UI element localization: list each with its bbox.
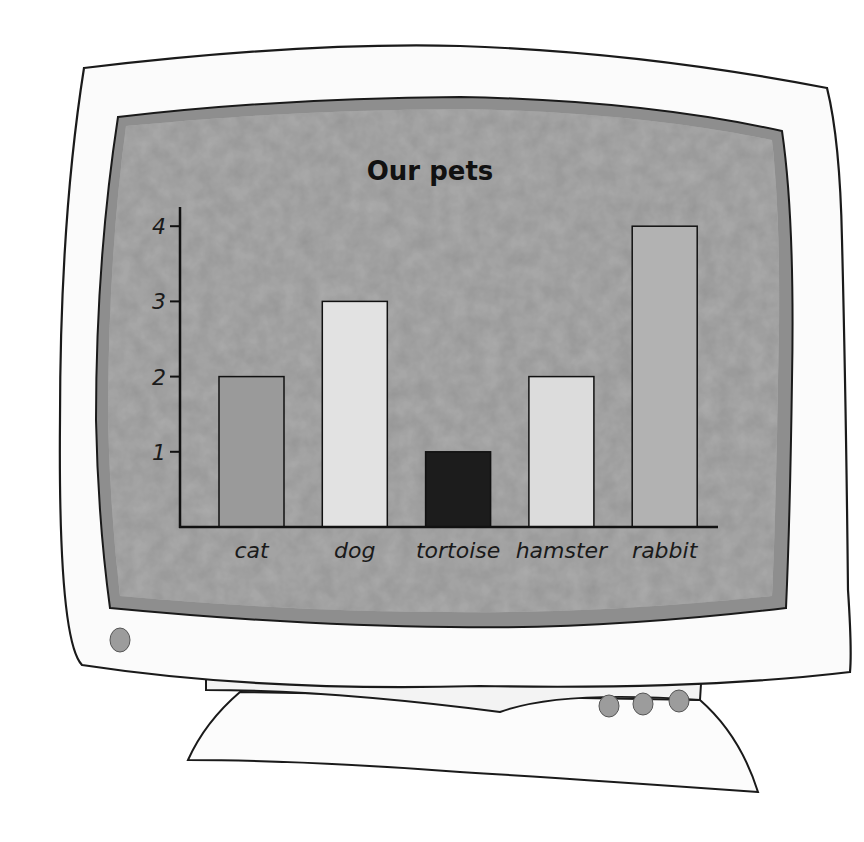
stand-button-2[interactable] xyxy=(633,693,653,715)
x-label-dog: dog xyxy=(334,538,375,563)
monitor-illustration: Our pets 1234 catdogtortoisehamsterrabbi… xyxy=(0,0,864,842)
bar-dog xyxy=(322,301,387,527)
bar-rabbit xyxy=(632,226,697,527)
power-button[interactable] xyxy=(110,628,130,652)
x-label-tortoise: tortoise xyxy=(416,538,500,563)
bar-hamster xyxy=(529,377,594,527)
stand-button-1[interactable] xyxy=(599,695,619,717)
x-label-rabbit: rabbit xyxy=(632,538,699,563)
chart-title: Our pets xyxy=(367,156,494,186)
bar-tortoise xyxy=(426,452,491,527)
x-label-cat: cat xyxy=(234,538,270,563)
y-tick-label: 1 xyxy=(152,440,166,465)
y-tick-label: 3 xyxy=(152,289,166,314)
y-tick-label: 2 xyxy=(152,365,166,390)
stand-button-3[interactable] xyxy=(669,690,689,712)
y-tick-label: 4 xyxy=(152,214,166,239)
x-label-hamster: hamster xyxy=(516,538,609,563)
bar-cat xyxy=(219,377,284,527)
